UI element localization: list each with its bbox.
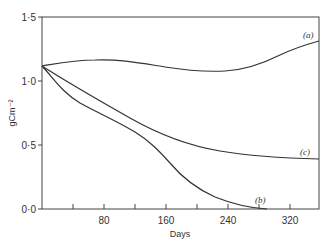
curve-a-label: (a) [303,30,314,40]
x-tick-label: 80 [98,215,110,226]
y-axis-title: gCm⁻² [7,99,17,126]
curve-b-label: (b) [255,195,266,205]
x-axis-title: Days [170,229,191,239]
x-tick-label: 160 [158,215,175,226]
x-tick-label: 240 [220,215,237,226]
curve-b [42,66,267,209]
curve-a [42,41,319,71]
y-tick-label: 1·5 [22,12,37,23]
curve-c [42,66,319,159]
y-tick-label: 0·0 [22,204,37,215]
plot-frame [42,17,319,209]
x-tick-label: 320 [282,215,299,226]
curve-c-label: (c) [300,147,310,157]
y-tick-label: 1·0 [22,76,37,87]
y-tick-label: 0·5 [22,140,37,151]
line-chart: 1·5 1·0 0·5 0·0 80 160 240 320 Days gCm⁻… [0,0,331,247]
y-axis [38,17,42,209]
